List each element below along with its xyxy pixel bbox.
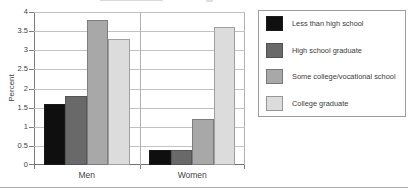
y-tick-label: 4	[0, 8, 28, 16]
category-label: Men	[42, 170, 132, 180]
legend-swatch	[266, 69, 283, 84]
y-tick-mark	[29, 146, 34, 147]
category-label: Women	[147, 170, 237, 180]
x-tick-mark	[244, 165, 245, 169]
legend-item: Less than high school	[266, 16, 403, 31]
y-tick-mark	[29, 50, 34, 51]
bar-women-1	[149, 150, 171, 165]
legend-box: Less than high schoolHigh school graduat…	[258, 10, 406, 117]
category-divider	[140, 12, 141, 165]
bottom-rule	[0, 187, 408, 188]
bar-men-1	[44, 104, 66, 165]
legend-label: College graduate	[292, 99, 348, 108]
y-tick-mark	[29, 31, 34, 32]
legend-item: High school graduate	[266, 43, 403, 58]
y-tick-label: 2	[0, 85, 28, 93]
legend-item: Some college/vocational school	[266, 69, 403, 84]
legend-swatch	[266, 43, 283, 58]
bar-women-2	[171, 150, 193, 165]
cropped-title-remnant	[100, 0, 163, 1]
legend-swatch	[266, 96, 283, 111]
y-tick-label: 3	[0, 46, 28, 54]
y-tick-label: 0	[0, 161, 28, 169]
bar-women-4	[214, 27, 236, 165]
y-tick-label: 1.5	[0, 104, 28, 112]
y-tick-label: 3.5	[0, 27, 28, 35]
x-tick-mark	[140, 165, 141, 169]
y-tick-label: 1	[0, 123, 28, 131]
y-tick-mark	[29, 127, 34, 128]
legend-label: Some college/vocational school	[292, 72, 396, 81]
y-tick-mark	[29, 12, 34, 13]
x-tick-mark	[34, 165, 35, 169]
y-tick-label: 2.5	[0, 65, 28, 73]
legend-label: Less than high school	[292, 19, 364, 28]
y-tick-mark	[29, 69, 34, 70]
bar-men-2	[65, 96, 87, 165]
legend-item: College graduate	[266, 96, 403, 111]
legend-label: High school graduate	[292, 46, 362, 55]
plot-area	[34, 12, 245, 165]
bar-women-3	[192, 119, 214, 165]
bar-men-4	[108, 39, 130, 165]
y-tick-mark	[29, 108, 34, 109]
y-tick-mark	[29, 89, 34, 90]
y-tick-label: 0.5	[0, 142, 28, 150]
bar-men-3	[87, 20, 109, 165]
bar-chart-figure: Percent Less than high schoolHigh school…	[0, 0, 408, 190]
cropped-title-remnant	[206, 0, 213, 2]
legend-swatch	[266, 16, 283, 31]
